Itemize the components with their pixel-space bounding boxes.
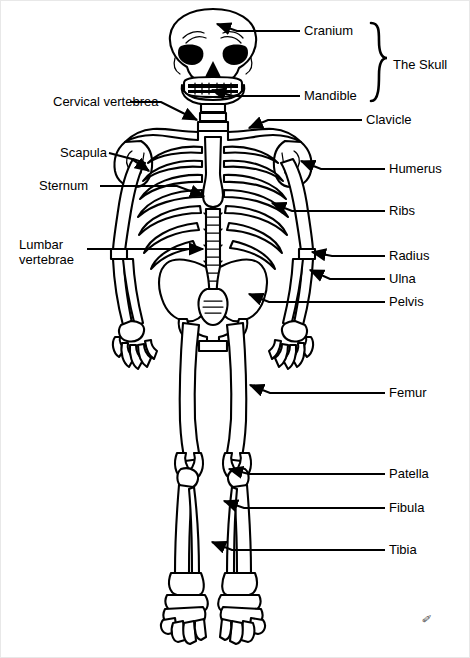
label-lumbar-vertebrae: Lumbar vertebrae bbox=[19, 237, 74, 267]
label-ulna: Ulna bbox=[389, 272, 416, 286]
label-femur: Femur bbox=[389, 386, 427, 400]
label-the-skull: The Skull bbox=[393, 58, 447, 72]
label-pelvis: Pelvis bbox=[389, 295, 424, 309]
label-sternum: Sternum bbox=[39, 179, 88, 193]
label-cervical-vertebrea: Cervical vertebrea bbox=[53, 95, 159, 109]
label-cranium: Cranium bbox=[304, 24, 353, 38]
artist-signature: ✐ bbox=[421, 613, 430, 626]
label-humerus: Humerus bbox=[389, 162, 442, 176]
label-clavicle: Clavicle bbox=[366, 113, 412, 127]
label-patella: Patella bbox=[389, 467, 429, 481]
label-mandible: Mandible bbox=[304, 89, 357, 103]
skeleton-diagram: CraniumMandibleClavicleHumerusRibsRadius… bbox=[0, 0, 470, 658]
label-ribs: Ribs bbox=[389, 204, 415, 218]
label-scapula: Scapula bbox=[60, 146, 107, 160]
label-fibula: Fibula bbox=[389, 501, 424, 515]
label-tibia: Tibia bbox=[389, 543, 417, 557]
skull-brace bbox=[371, 23, 387, 101]
label-radius: Radius bbox=[389, 249, 429, 263]
